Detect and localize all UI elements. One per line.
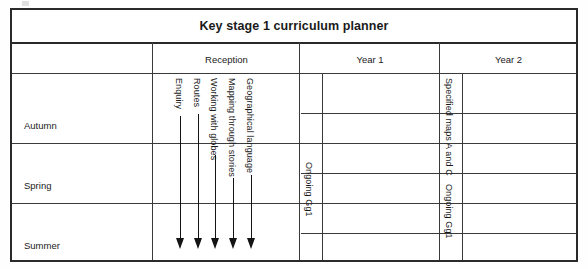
reception-arrow-head-routes [194,238,202,249]
year1-ongoing-note-label: Ongoing Gg1 [444,184,454,239]
year-1-column-header-label: Year 1 [356,54,383,65]
summer-row-header-label: Summer [24,240,60,251]
reception-arrow-head-enquiry [176,238,184,249]
term-reception-divider [152,42,153,260]
reception-ongoing-note-label: Ongoing Gg1 [304,162,314,217]
planner-table: Key stage 1 curriculum planner Reception… [10,8,578,262]
autumn-spring-separator [12,143,576,144]
curriculum-planner-page: Key stage 1 curriculum planner Reception… [0,0,588,270]
planner-title-row: Key stage 1 curriculum planner [12,10,576,42]
reception-arrow-head-working-with-globes [211,238,219,249]
header-bottom-rule [12,73,576,74]
spring-row-header: Spring [24,180,51,191]
year1-ongoing-note: Ongoing Gg1 [444,184,454,239]
spring-summer-separator [12,203,576,204]
reception-arrow-line-working-with-globes [215,155,216,240]
reception-arrow-line-routes [198,114,199,240]
spring-row-header-label: Spring [24,180,51,191]
reception-arrow-line-geographical-language [251,175,252,240]
reception-strand-working-with-globes: Working with globes [209,78,219,160]
summer-row-header: Summer [24,240,60,251]
year-2-column-header: Year 2 [441,44,576,74]
autumn-row-header: Autumn [24,120,57,131]
scan-artifact-speck [22,1,29,6]
ongoing-year1-divider [322,73,323,260]
reception-ongoing-divider [299,42,300,260]
year1-specified-divider [439,42,440,260]
reception-strand-enquiry-label: Enquiry [174,78,184,109]
year-1-column-header: Year 1 [301,44,439,74]
page-title: Key stage 1 curriculum planner [199,19,388,33]
reception-strand-routes: Routes [192,78,202,107]
year1-specified-maps-note: Specified maps A and C [444,78,454,176]
year-2-column-header-label: Year 2 [495,54,522,65]
reception-column-header-label: Reception [205,54,248,65]
reception-arrow-head-mapping-through-stories [229,238,237,249]
reception-strand-working-with-globes-label: Working with globes [209,78,219,160]
reception-strand-routes-label: Routes [192,78,202,107]
term-column-header [12,44,152,74]
reception-arrow-head-geographical-language [247,238,255,249]
reception-strand-enquiry: Enquiry [174,78,184,109]
reception-ongoing-note: Ongoing Gg1 [304,162,314,217]
reception-strand-mapping-through-stories-label: Mapping through stories [227,78,237,177]
reception-column-header: Reception [154,44,299,74]
reception-arrow-line-enquiry [180,116,181,240]
specified-year2-divider [462,73,463,260]
reception-strand-mapping-through-stories: Mapping through stories [227,78,237,177]
reception-strand-geographical-language: Geographical language [245,78,255,173]
reception-strand-geographical-language-label: Geographical language [245,78,255,173]
year1-specified-maps-note-label: Specified maps A and C [444,78,454,176]
autumn-row-header-label: Autumn [24,120,57,131]
reception-arrow-line-mapping-through-stories [233,178,234,240]
